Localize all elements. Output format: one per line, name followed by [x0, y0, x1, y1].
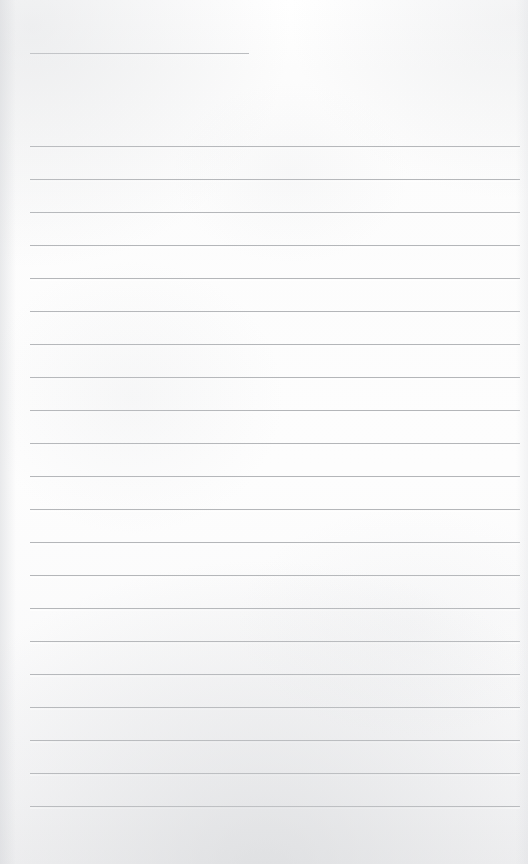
ruled-line[interactable]	[30, 806, 520, 809]
notepad-page	[0, 0, 528, 864]
ruled-line[interactable]	[30, 311, 520, 314]
rule-fade-right	[494, 444, 520, 446]
rule-fade-right	[494, 609, 520, 611]
rule-fade-left	[30, 774, 56, 776]
rule-fade-left	[30, 411, 56, 413]
rule-fade-right	[494, 477, 520, 479]
rule-fade-left	[30, 477, 56, 479]
ruled-line[interactable]	[30, 146, 520, 149]
rule-fade-left	[30, 246, 56, 248]
rule-fade-left	[30, 510, 56, 512]
ruled-line[interactable]	[30, 740, 520, 743]
rule-fade-right	[494, 708, 520, 710]
rule-fade-right	[494, 279, 520, 281]
rule-fade-left	[30, 807, 56, 809]
rule-fade-right	[494, 246, 520, 248]
rule-fade-right	[494, 774, 520, 776]
rule-fade-left	[30, 312, 56, 314]
rule-fade-right	[494, 147, 520, 149]
rule-fade-left	[30, 609, 56, 611]
rule-fade-right	[494, 642, 520, 644]
rule-fade-right	[494, 180, 520, 182]
rule-fade-right	[494, 213, 520, 215]
rule-fade-left	[30, 147, 56, 149]
rule-fade-right	[494, 312, 520, 314]
rule-fade-right	[494, 675, 520, 677]
rule-fade-left	[30, 543, 56, 545]
rule-fade-right	[494, 510, 520, 512]
rule-fade-left	[30, 444, 56, 446]
ruled-line[interactable]	[30, 278, 520, 281]
ruled-line[interactable]	[30, 212, 520, 215]
rule-fade-left	[30, 708, 56, 710]
ruled-line[interactable]	[30, 608, 520, 611]
rule-fade-right	[494, 378, 520, 380]
ruled-line[interactable]	[30, 245, 520, 248]
rule-fade-right	[494, 543, 520, 545]
rule-fade-left	[30, 345, 56, 347]
ruled-line[interactable]	[30, 443, 520, 446]
ruled-lines-area	[0, 0, 528, 864]
rule-fade-left	[30, 279, 56, 281]
rule-fade-right	[494, 576, 520, 578]
ruled-line[interactable]	[30, 476, 520, 479]
rule-fade-left	[30, 576, 56, 578]
rule-fade-left	[30, 378, 56, 380]
rule-fade-left	[30, 741, 56, 743]
ruled-line[interactable]	[30, 575, 520, 578]
ruled-line[interactable]	[30, 641, 520, 644]
ruled-line[interactable]	[30, 344, 520, 347]
ruled-line[interactable]	[30, 410, 520, 413]
ruled-line[interactable]	[30, 509, 520, 512]
rule-fade-right	[494, 807, 520, 809]
rule-fade-left	[30, 675, 56, 677]
ruled-line[interactable]	[30, 773, 520, 776]
rule-fade-right	[494, 411, 520, 413]
rule-fade-left	[30, 642, 56, 644]
rule-fade-left	[30, 213, 56, 215]
rule-fade-right	[494, 345, 520, 347]
ruled-line[interactable]	[30, 377, 520, 380]
ruled-line[interactable]	[30, 674, 520, 677]
rule-fade-right	[494, 741, 520, 743]
rule-fade-left	[30, 180, 56, 182]
ruled-line[interactable]	[30, 542, 520, 545]
ruled-line[interactable]	[30, 179, 520, 182]
ruled-line[interactable]	[30, 707, 520, 710]
